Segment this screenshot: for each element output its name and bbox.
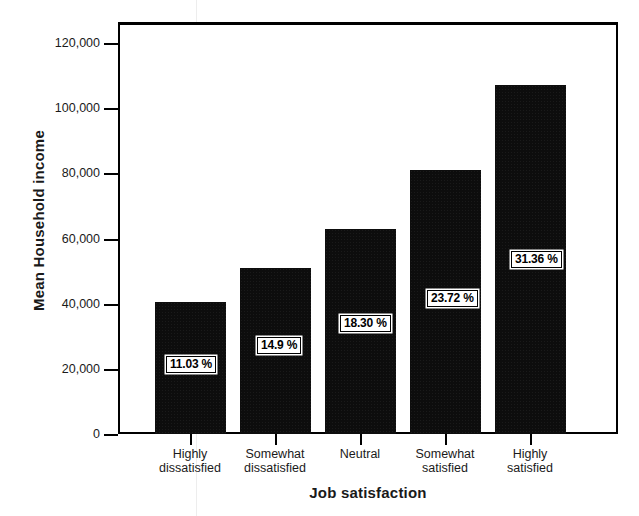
- y-tick-80000: [104, 173, 118, 175]
- category-line-1: Neutral: [340, 447, 380, 461]
- data-label-highly-satisfied: 31.36 %: [511, 251, 562, 268]
- y-tick-20000: [104, 369, 118, 371]
- category-line-2: satisfied: [470, 461, 590, 475]
- category-line-1: Somewhat: [245, 447, 304, 461]
- bar-chart-figure: Mean Household income Job satisfaction 1…: [0, 0, 639, 516]
- x-tick-somewhat-satisfied: [445, 434, 447, 445]
- y-tick-label-40000: 40,000: [14, 297, 100, 311]
- x-axis-title: Job satisfaction: [118, 484, 618, 501]
- y-tick-label-80000: 80,000: [14, 166, 100, 180]
- data-label-somewhat-dissatisfied: 14.9 %: [257, 337, 301, 354]
- y-tick-40000: [104, 304, 118, 306]
- y-tick-label-20000: 20,000: [14, 362, 100, 376]
- x-tick-highly-satisfied: [530, 434, 532, 445]
- x-tick-neutral: [360, 434, 362, 445]
- category-line-1: Highly: [513, 447, 548, 461]
- y-tick-label-100000: 100,000: [14, 101, 100, 115]
- y-tick-60000: [104, 239, 118, 241]
- data-label-neutral: 18.30 %: [340, 315, 391, 332]
- y-axis-title: Mean Household income: [30, 91, 47, 351]
- y-tick-0: [104, 434, 118, 436]
- y-tick-120000: [104, 43, 118, 45]
- data-label-highly-dissatisfied: 11.03 %: [166, 356, 216, 373]
- category-line-1: Somewhat: [415, 447, 474, 461]
- category-line-1: Highly: [173, 447, 208, 461]
- x-tick-highly-dissatisfied: [190, 434, 192, 445]
- y-tick-label-60000: 60,000: [14, 232, 100, 246]
- y-tick-100000: [104, 108, 118, 110]
- x-tick-somewhat-dissatisfied: [275, 434, 277, 445]
- y-tick-label-120000: 120,000: [14, 36, 100, 50]
- data-label-somewhat-satisfied: 23.72 %: [427, 290, 478, 307]
- x-category-label-highly-satisfied: Highly satisfied: [470, 447, 590, 475]
- y-tick-label-0: 0: [14, 427, 100, 441]
- category-line-2: dissatisfied: [215, 461, 335, 475]
